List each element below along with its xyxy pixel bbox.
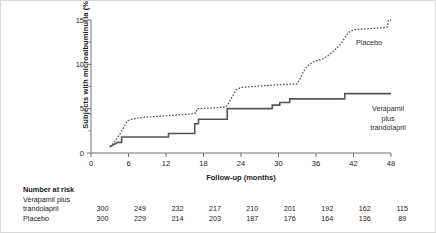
risk-value: 300 <box>84 204 121 213</box>
risk-value: 162 <box>346 204 383 213</box>
verapamil-annotation-line2: plus <box>353 114 423 124</box>
risk-value: 300 <box>84 214 121 223</box>
risk-table-row: trandolapril300249232217210201192162115 <box>23 204 421 213</box>
x-tick-label: 18 <box>199 159 207 168</box>
y-axis-ticks: 051015 <box>76 16 91 158</box>
number-at-risk-table: trandolapril300249232217210201192162115P… <box>23 204 421 223</box>
y-tick-label: 15 <box>76 16 84 25</box>
x-tick-label: 30 <box>274 159 282 168</box>
y-tick-label: 10 <box>76 60 84 69</box>
y-tick-label: 0 <box>80 149 84 158</box>
risk-value: 176 <box>271 214 308 223</box>
x-tick-label: 36 <box>312 159 320 168</box>
risk-value: 217 <box>196 204 233 213</box>
chart-series-layer <box>110 20 391 147</box>
verapamil-annotation-line1: Verapamil <box>353 104 423 114</box>
series-line-0 <box>110 20 391 147</box>
risk-value: 201 <box>271 204 308 213</box>
risk-value: 229 <box>121 214 158 223</box>
risk-value: 164 <box>309 214 346 223</box>
risk-value: 232 <box>159 204 196 213</box>
series-annotation-verapamil: Verapamil plus trandolapril <box>353 104 423 133</box>
risk-value: 136 <box>346 214 383 223</box>
risk-value: 192 <box>309 204 346 213</box>
risk-table-row: Placebo30022921420318717616413689 <box>23 214 421 223</box>
series-line-1 <box>110 94 391 147</box>
x-tick-label: 24 <box>237 159 245 168</box>
x-axis-label: Follow-up (months) <box>91 173 391 182</box>
risk-row-0-label-line1: Verapamil plus <box>23 195 423 204</box>
risk-value: 210 <box>234 204 271 213</box>
x-tick-label: 12 <box>162 159 170 168</box>
figure-panel: Subjects with microalbuminuria (%) 05101… <box>0 0 436 233</box>
series-annotation-placebo: Placebo <box>356 38 382 48</box>
x-tick-label: 42 <box>349 159 357 168</box>
x-axis-ticks: 0612182430364248 <box>89 153 395 168</box>
x-tick-label: 6 <box>126 159 130 168</box>
number-at-risk-title: Number at risk <box>23 185 423 194</box>
number-at-risk-block: Number at risk Verapamil plus trandolapr… <box>23 185 423 223</box>
risk-value: 89 <box>384 214 422 223</box>
verapamil-annotation-line3: trandolapril <box>353 123 423 133</box>
y-tick-label: 5 <box>80 104 84 113</box>
x-tick-label: 0 <box>89 159 93 168</box>
risk-value: 203 <box>196 214 233 223</box>
x-tick-label: 48 <box>387 159 395 168</box>
risk-value: 187 <box>234 214 271 223</box>
risk-value: 249 <box>121 204 158 213</box>
risk-value: 115 <box>384 204 422 213</box>
risk-row-label: trandolapril <box>23 204 84 213</box>
risk-value: 214 <box>159 214 196 223</box>
risk-row-label: Placebo <box>23 214 84 223</box>
chart-axes <box>91 20 391 153</box>
